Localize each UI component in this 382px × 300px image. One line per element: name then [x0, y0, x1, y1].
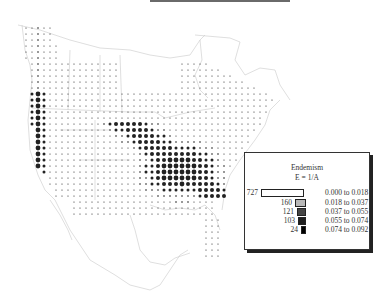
- grid-cell-dot: [25, 57, 26, 58]
- grid-cell-dot: [229, 165, 230, 166]
- grid-cell-dot: [168, 146, 172, 150]
- grid-cell-dot: [61, 75, 62, 76]
- grid-cell-dot: [163, 117, 164, 118]
- grid-cell-dot: [145, 183, 147, 185]
- grid-cell-dot: [61, 123, 62, 124]
- grid-cell-dot: [49, 63, 50, 64]
- grid-cell-dot: [157, 201, 158, 202]
- grid-cell-dot: [133, 183, 134, 184]
- grid-cell-dot: [193, 141, 195, 143]
- grid-cell-dot: [181, 105, 182, 106]
- grid-cell-dot: [31, 81, 32, 82]
- grid-cell-dot: [31, 123, 34, 126]
- grid-cell-dot: [31, 117, 34, 120]
- grid-cell-dot: [73, 81, 74, 82]
- grid-cell-dot: [133, 117, 134, 118]
- grid-cell-dot: [217, 93, 218, 94]
- grid-cell-dot: [109, 111, 110, 112]
- grid-cell-dot: [217, 99, 218, 100]
- grid-cell-dot: [121, 207, 122, 208]
- grid-cell-dot: [180, 170, 185, 175]
- grid-cell-dot: [97, 213, 98, 214]
- grid-cell-dot: [163, 207, 164, 208]
- grid-cell-dot: [43, 27, 44, 28]
- grid-cell-dot: [145, 105, 146, 106]
- grid-cell-dot: [198, 170, 202, 174]
- grid-cell-dot: [73, 93, 74, 94]
- grid-cell-dot: [115, 93, 116, 94]
- grid-cell-dot: [67, 189, 68, 190]
- grid-cell-dot: [138, 140, 142, 144]
- grid-cell-dot: [109, 135, 110, 136]
- grid-cell-dot: [181, 81, 182, 82]
- grid-cell-dot: [132, 122, 136, 126]
- grid-cell-dot: [157, 99, 158, 100]
- grid-cell-dot: [210, 188, 214, 192]
- grid-cell-dot: [25, 27, 26, 28]
- grid-cell-dot: [109, 99, 110, 100]
- grid-cell-dot: [133, 105, 134, 106]
- grid-cell-dot: [37, 69, 39, 71]
- grid-cell-dot: [103, 129, 104, 130]
- grid-cell-dot: [187, 81, 188, 82]
- grid-cell-dot: [139, 93, 140, 94]
- grid-cell-dot: [205, 141, 206, 142]
- grid-cell-dot: [151, 195, 152, 196]
- grid-cell-dot: [103, 117, 104, 118]
- grid-cell-dot: [151, 189, 153, 191]
- grid-cell-dot: [211, 147, 213, 149]
- grid-cell-dot: [187, 63, 188, 64]
- grid-cell-dot: [103, 195, 104, 196]
- grid-cell-dot: [36, 140, 41, 145]
- grid-cell-dot: [97, 63, 98, 64]
- grid-cell-dot: [229, 105, 230, 106]
- grid-cell-dot: [67, 159, 68, 160]
- grid-cell-dot: [181, 75, 182, 76]
- grid-cell-dot: [217, 129, 218, 130]
- grid-cell-dot: [115, 213, 116, 214]
- grid-cell-dot: [85, 75, 86, 76]
- grid-cell-dot: [235, 111, 236, 112]
- grid-cell-dot: [85, 165, 86, 166]
- grid-cell-dot: [55, 165, 56, 166]
- grid-cell-dot: [115, 135, 117, 137]
- grid-cell-dot: [205, 147, 207, 149]
- grid-cell-dot: [36, 98, 41, 103]
- grid-cell-dot: [67, 177, 68, 178]
- grid-cell-dot: [217, 177, 219, 179]
- grid-cell-dot: [103, 105, 104, 106]
- grid-cell-dot: [199, 213, 200, 214]
- grid-cell-dot: [205, 129, 206, 130]
- grid-cell-dot: [127, 99, 128, 100]
- grid-cell-dot: [271, 99, 272, 100]
- grid-cell-dot: [151, 99, 152, 100]
- grid-cell-dot: [67, 117, 68, 118]
- grid-cell-dot: [180, 176, 185, 181]
- grid-cell-dot: [103, 111, 104, 112]
- grid-cell-dot: [133, 213, 134, 214]
- grid-cell-dot: [91, 63, 92, 64]
- grid-cell-dot: [121, 183, 122, 184]
- grid-cell-dot: [79, 159, 80, 160]
- legend-count: 727: [245, 188, 258, 197]
- grid-cell-dot: [180, 164, 185, 169]
- grid-cell-dot: [211, 243, 212, 244]
- grid-cell-dot: [73, 123, 74, 124]
- grid-cell-dot: [174, 152, 178, 156]
- grid-cell-dot: [97, 177, 98, 178]
- grid-cell-dot: [181, 201, 183, 203]
- grid-cell-dot: [211, 237, 212, 238]
- grid-cell-dot: [157, 207, 158, 208]
- grid-cell-dot: [49, 171, 50, 172]
- grid-cell-dot: [169, 207, 170, 208]
- grid-cell-dot: [229, 93, 230, 94]
- grid-cell-dot: [115, 63, 116, 64]
- grid-cell-dot: [211, 141, 212, 142]
- grid-cell-dot: [139, 99, 140, 100]
- grid-cell-dot: [55, 87, 56, 88]
- grid-cell-dot: [253, 111, 254, 112]
- grid-cell-dot: [217, 183, 220, 186]
- grid-cell-dot: [229, 129, 230, 130]
- grid-cell-dot: [199, 207, 200, 208]
- grid-cell-dot: [199, 117, 200, 118]
